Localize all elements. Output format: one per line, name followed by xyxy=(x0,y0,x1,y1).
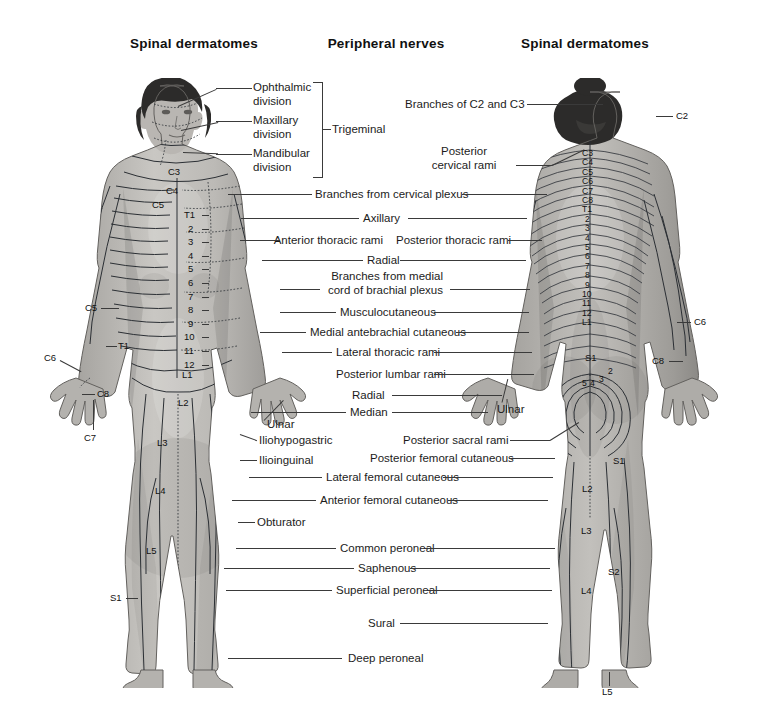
label-deep-peroneal: Deep peroneal xyxy=(348,652,423,666)
label-branches-medial-cord: Branches from medial cord of brachial pl… xyxy=(328,269,443,297)
leader-anterior-c7-hand xyxy=(93,400,94,430)
code-anterior-c5: C5 xyxy=(152,199,164,210)
label-axillary: Axillary xyxy=(363,212,400,226)
label-ulnar-left: Ulnar xyxy=(267,418,294,432)
leader-branches-c2-c3 xyxy=(527,104,603,105)
leader-radial-upper-left xyxy=(262,260,363,261)
leader-anterior-c5-arm xyxy=(101,308,119,309)
leader-ilioinguinal xyxy=(240,460,257,461)
code-posterior-c8: C8 xyxy=(652,355,664,366)
label-posterior-thoracic-rami: Posterior thoracic rami xyxy=(396,234,511,248)
code-posterior-l5-leg: L5 xyxy=(602,686,613,697)
chart-canvas: Spinal dermatomes Peripheral nerves Spin… xyxy=(0,0,764,725)
code-posterior-sacral-5: 5 xyxy=(582,378,587,388)
leader-posterior-c6 xyxy=(677,322,691,323)
label-ulnar-right: Ulnar xyxy=(497,403,524,417)
tick-anterior-thoracic-7 xyxy=(202,310,209,311)
code-posterior-c6: C6 xyxy=(694,316,706,327)
code-anterior-l2: L2 xyxy=(178,397,189,408)
leader-mandibular xyxy=(216,154,252,155)
code-anterior-c6-hand: C6 xyxy=(44,352,56,363)
leader-common-peroneal-right xyxy=(425,548,555,549)
code-anterior-thoracic-4: 5 xyxy=(188,263,193,274)
label-ilioinguinal: Ilioinguinal xyxy=(259,454,313,468)
tick-anterior-thoracic-6 xyxy=(202,297,209,298)
code-anterior-s1-leg: S1 xyxy=(110,592,122,603)
label-maxillary-division: Maxillary division xyxy=(253,113,298,141)
code-anterior-thoracic-2: 3 xyxy=(188,236,193,247)
code-posterior-l2-leg: L2 xyxy=(582,483,593,494)
leader-branches-medial-cord-right xyxy=(450,289,530,290)
leader-anterior-femoral-cutaneous-right xyxy=(448,500,548,501)
leader-anterior-femoral-cutaneous-left xyxy=(232,500,316,501)
label-superficial-peroneal: Superficial peroneal xyxy=(336,584,438,598)
trigeminal-stem-line xyxy=(322,129,331,130)
label-radial-upper: Radial xyxy=(367,254,400,268)
label-lateral-femoral-cutaneous: Lateral femoral cutaneous xyxy=(326,471,459,485)
leader-superficial-peroneal-left xyxy=(226,590,332,591)
code-anterior-thoracic-8: 9 xyxy=(188,318,193,329)
leader-radial-lower xyxy=(392,395,502,396)
leader-musculocutaneous-right xyxy=(434,312,529,313)
tick-anterior-thoracic-4 xyxy=(202,269,209,270)
tick-anterior-thoracic-10 xyxy=(202,351,209,352)
label-anterior-femoral-cutaneous: Anterior femoral cutaneous xyxy=(320,494,458,508)
leader-median-right xyxy=(392,412,488,413)
label-musculocutaneous: Musculocutaneous xyxy=(340,306,436,320)
leader-superficial-peroneal-right xyxy=(428,590,552,591)
code-posterior-sacral-4: 4 xyxy=(590,378,595,388)
tick-anterior-thoracic-8 xyxy=(202,324,209,325)
leader-ophthalmic xyxy=(216,88,252,89)
code-posterior-s2-leg: S2 xyxy=(608,566,620,577)
code-posterior-s1-top: S1 xyxy=(585,352,597,363)
ophthalmic-line2: division xyxy=(253,95,291,107)
leader-lateral-femoral-cutaneous-left xyxy=(249,477,322,478)
leader-posterior-cervical-rami xyxy=(516,165,552,166)
label-branches-from-cervical-plexus: Branches from cervical plexus xyxy=(315,188,468,202)
leader-median-left xyxy=(251,412,346,413)
label-ophthalmic-division: Ophthalmic division xyxy=(253,80,311,108)
label-mandibular-division: Mandibular division xyxy=(253,146,310,174)
label-branches-of-c2-and-c3: Branches of C2 and C3 xyxy=(405,98,525,112)
leader-axillary-right xyxy=(408,218,527,219)
label-anterior-thoracic-rami: Anterior thoracic rami xyxy=(274,234,383,248)
code-posterior-sacral-3: 3 xyxy=(599,374,604,384)
leader-sural xyxy=(400,623,548,624)
leader-anterior-s1-leg xyxy=(126,598,138,599)
label-median: Median xyxy=(350,406,388,420)
code-anterior-c7-hand: C7 xyxy=(84,432,96,443)
code-anterior-thoracic-11: 12 xyxy=(184,359,195,370)
label-sural: Sural xyxy=(368,617,395,631)
code-anterior-thoracic-5: 6 xyxy=(188,277,193,288)
code-anterior-thoracic-0: T1 xyxy=(184,209,195,220)
label-posterior-cervical-rami: Posterior cervical rami xyxy=(432,144,497,172)
header-right-spinal-dermatomes: Spinal dermatomes xyxy=(521,36,649,51)
tick-anterior-thoracic-3 xyxy=(202,256,209,257)
leader-posterior-femoral-cutaneous xyxy=(509,458,555,459)
leader-deep-peroneal xyxy=(228,658,342,659)
code-anterior-c8-hand: C8 xyxy=(97,388,109,399)
header-center-peripheral-nerves: Peripheral nerves xyxy=(328,36,445,51)
code-anterior-thoracic-6: 7 xyxy=(188,291,193,302)
label-obturator: Obturator xyxy=(257,516,306,530)
leader-posterior-lumbar-rami xyxy=(434,374,534,375)
code-anterior-l1: L1 xyxy=(182,369,193,380)
code-posterior-l4-leg: L4 xyxy=(581,585,592,596)
header-left-spinal-dermatomes: Spinal dermatomes xyxy=(130,36,258,51)
leader-medial-antebrachial-left xyxy=(260,332,306,333)
maxillary-line2: division xyxy=(253,128,291,140)
leader-branches-medial-cord xyxy=(280,289,320,290)
label-saphenous: Saphenous xyxy=(358,562,416,576)
leader-posterior-l5 xyxy=(609,672,610,686)
branches-medial-line2: cord of brachial plexus xyxy=(328,284,443,296)
label-posterior-sacral-rami: Posterior sacral rami xyxy=(403,434,508,448)
leader-maxillary xyxy=(216,121,252,122)
tick-anterior-thoracic-0 xyxy=(202,215,209,216)
posterior-cervical-rami-line2: cervical rami xyxy=(432,159,497,171)
code-posterior-spine-18: L1 xyxy=(582,317,592,327)
leader-anterior-t1-arm xyxy=(106,346,117,347)
tick-anterior-thoracic-5 xyxy=(202,283,209,284)
mandibular-line2: division xyxy=(253,161,291,173)
tick-anterior-thoracic-1 xyxy=(202,229,209,230)
label-lateral-thoracic-rami: Lateral thoracic rami xyxy=(336,346,440,360)
